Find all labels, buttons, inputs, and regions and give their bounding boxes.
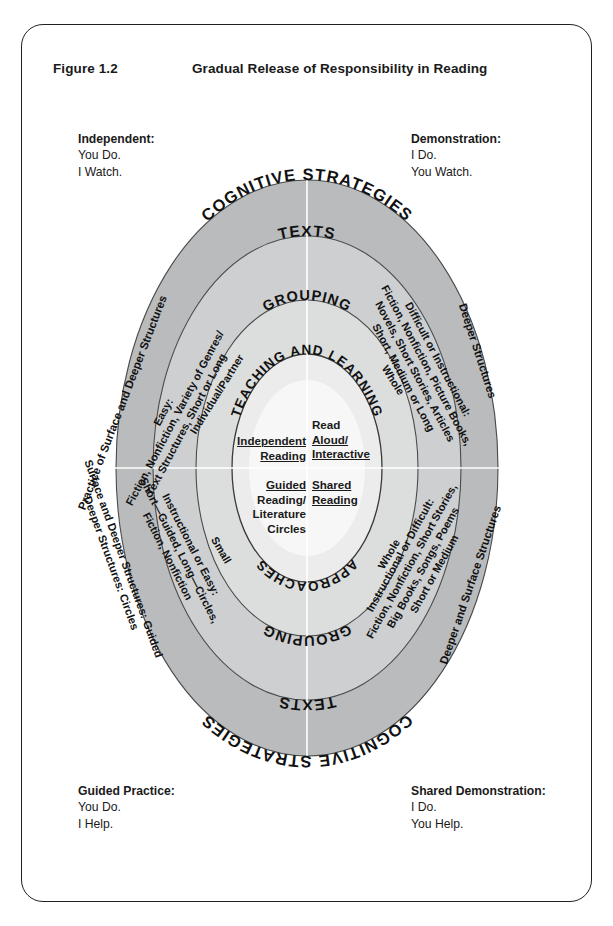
center-gr-line4: Circles <box>267 522 306 535</box>
center-shared-reading: Shared Reading <box>312 478 422 507</box>
center-ra-line1: Read <box>312 418 340 431</box>
center-gr-line1: Guided <box>266 478 306 491</box>
center-ir-line1: Independent <box>237 434 306 447</box>
center-gr-line3: Literature <box>253 507 306 520</box>
center-ir-line2: Reading <box>260 449 306 462</box>
center-gr-line2: Reading/ <box>257 493 306 506</box>
center-independent-reading: Independent Reading <box>196 434 306 463</box>
concentric-ellipse-diagram: COGNITIVE STRATEGIES TEXTS GROUPING TEAC… <box>0 0 613 926</box>
center-ra-line3: Interactive <box>312 447 370 460</box>
center-guided-reading-literature-circles: Guided Reading/ Literature Circles <box>196 478 306 536</box>
center-sr-line1: Shared <box>312 478 351 491</box>
center-ra-line2: Aloud/ <box>312 433 348 446</box>
center-read-aloud-interactive: Read Aloud/ Interactive <box>312 418 422 462</box>
center-sr-line2: Reading <box>312 493 358 506</box>
